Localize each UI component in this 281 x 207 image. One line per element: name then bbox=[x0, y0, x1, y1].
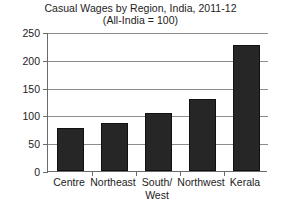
y-axis-label-100: 100 bbox=[22, 110, 40, 122]
x-axis-label-3: Northwest bbox=[177, 176, 224, 189]
y-axis-label-250: 250 bbox=[22, 27, 40, 39]
x-axis-label-2-line-1: West bbox=[142, 189, 172, 202]
chart-title: Casual Wages by Region, India, 2011-12 (… bbox=[0, 2, 281, 26]
y-tick-0 bbox=[43, 172, 48, 173]
chart-title-line-1: Casual Wages by Region, India, 2011-12 bbox=[0, 2, 281, 14]
x-axis-label-4-line-0: Kerala bbox=[230, 176, 260, 189]
bar-chart-figure: Casual Wages by Region, India, 2011-12 (… bbox=[0, 0, 281, 207]
y-axis-label-200: 200 bbox=[22, 55, 40, 67]
x-axis-label-3-line-0: Northwest bbox=[177, 176, 224, 189]
y-axis-label-150: 150 bbox=[22, 83, 40, 95]
bar-kerala bbox=[233, 45, 260, 171]
x-axis-label-2: South/West bbox=[142, 176, 172, 201]
bar-northwest bbox=[189, 99, 216, 171]
bar-centre bbox=[57, 128, 84, 171]
x-axis-labels: CentreNortheastSouth/WestNorthwestKerala bbox=[47, 176, 267, 206]
x-axis-label-4: Kerala bbox=[230, 176, 260, 189]
bar-south-west bbox=[145, 113, 172, 171]
x-axis-label-0: Centre bbox=[53, 176, 85, 189]
bars-layer bbox=[48, 32, 268, 171]
y-axis-label-0: 0 bbox=[34, 166, 40, 178]
x-axis-label-0-line-0: Centre bbox=[53, 176, 85, 189]
bar-northeast bbox=[101, 123, 128, 171]
chart-title-line-2: (All-India = 100) bbox=[0, 14, 281, 26]
plot-area: 050100150200250 bbox=[47, 33, 267, 172]
x-axis-label-2-line-0: South/ bbox=[142, 176, 172, 189]
x-axis-label-1: Northeast bbox=[90, 176, 136, 189]
y-axis-label-50: 50 bbox=[28, 138, 40, 150]
x-axis-label-1-line-0: Northeast bbox=[90, 176, 136, 189]
